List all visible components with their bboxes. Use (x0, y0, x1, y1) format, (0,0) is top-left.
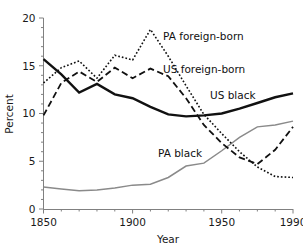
chart-container: 05101520 1850190019501990 PA foreign-bor… (0, 0, 303, 251)
x-tick-label: 1900 (119, 216, 146, 228)
series-annotation-pa-foreign-born: PA foreign-born (163, 30, 244, 42)
x-axis-title: Year (156, 233, 180, 245)
y-tick-label: 20 (22, 12, 35, 24)
x-axis-tick-labels: 1850190019501990 (30, 216, 303, 228)
series-annotation-pa-black: PA black (158, 147, 203, 159)
y-axis-ticks (39, 18, 44, 209)
line-chart: 05101520 1850190019501990 PA foreign-bor… (0, 0, 303, 251)
y-tick-label: 0 (29, 203, 36, 215)
y-tick-label: 5 (29, 155, 36, 167)
x-tick-label: 1850 (30, 216, 57, 228)
series-annotation-us-black: US black (210, 89, 256, 101)
series-annotations-group: PA foreign-bornUS foreign-bornUS blackPA… (158, 30, 256, 159)
x-tick-label: 1950 (208, 216, 235, 228)
series-annotation-us-foreign-born: US foreign-born (163, 63, 245, 75)
y-tick-label: 15 (22, 60, 35, 72)
series-paths-group (44, 29, 294, 190)
y-axis-title: Percent (3, 94, 15, 134)
y-tick-label: 10 (22, 107, 35, 119)
y-axis-tick-labels: 05101520 (22, 12, 35, 215)
x-tick-label: 1990 (280, 216, 303, 228)
